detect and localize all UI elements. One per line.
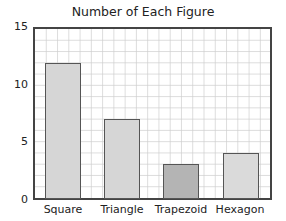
y-tick-0: 0 <box>2 193 28 206</box>
chart-title: Number of Each Figure <box>0 4 286 19</box>
x-label-hexagon: Hexagon <box>205 203 275 216</box>
y-tick-5: 5 <box>2 135 28 148</box>
y-tick-10: 10 <box>2 78 28 91</box>
bar-trapezoid <box>163 164 199 199</box>
y-tick-15: 15 <box>2 20 28 33</box>
bar-triangle <box>104 119 140 199</box>
bar-square <box>45 63 81 199</box>
bar-hexagon <box>223 153 259 199</box>
